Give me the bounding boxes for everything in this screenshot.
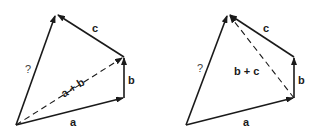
vector-resultant (16, 16, 55, 125)
label-a: a (70, 116, 77, 128)
vector-a (186, 98, 293, 125)
vector-b-plus-c (230, 16, 294, 98)
label-b-plus-c: b + c (234, 65, 259, 77)
label-resultant: ? (25, 63, 31, 75)
label-a-plus-b: a + b (59, 76, 87, 100)
vector-c (58, 15, 124, 57)
label-c: c (92, 22, 98, 34)
label-a: a (243, 116, 250, 128)
label-b: b (128, 74, 135, 86)
vector-c (230, 15, 294, 57)
vector-addition-figure: a b c ? a + b a b c ? b + c (0, 0, 320, 135)
label-resultant: ? (197, 62, 203, 74)
vector-resultant (186, 16, 227, 125)
right-diagram: a b c ? b + c (186, 15, 305, 128)
label-b: b (298, 74, 305, 86)
label-c: c (263, 22, 269, 34)
left-diagram: a b c ? a + b (16, 15, 135, 128)
